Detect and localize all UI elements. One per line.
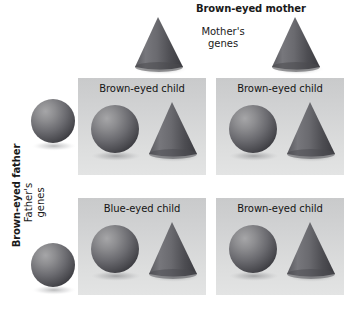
cell-bottom-right-cone-icon	[282, 218, 342, 284]
cell-bottom-left[interactable]: Blue-eyed child	[78, 198, 206, 295]
cell-bottom-right-label: Brown-eyed child	[216, 203, 344, 214]
cell-top-left-cone-icon	[144, 98, 204, 164]
father-title: Brown-eyed father	[11, 141, 22, 251]
father-genes-line-1: Father's	[23, 168, 35, 238]
mother-genes-line-1: Mother's	[199, 26, 247, 38]
cell-top-right-sphere-icon	[226, 102, 284, 164]
mother-genes-line-2: genes	[199, 38, 247, 50]
cell-top-left-sphere-icon	[88, 102, 146, 164]
mother-title: Brown-eyed mother	[196, 3, 306, 14]
father-genes-label: Father's genes	[23, 168, 46, 238]
cell-top-right-label: Brown-eyed child	[216, 83, 344, 94]
cell-top-right-cone-icon	[282, 98, 342, 164]
father-gamete-2-sphere-icon	[28, 240, 82, 296]
cell-top-left-label: Brown-eyed child	[78, 83, 206, 94]
cell-bottom-left-sphere-icon	[88, 222, 146, 284]
punnett-square-diagram: Brown-eyed mother Mother's genes Brown-e…	[0, 0, 359, 313]
cell-top-left[interactable]: Brown-eyed child	[78, 78, 206, 175]
cell-bottom-right-sphere-icon	[226, 222, 284, 284]
cell-bottom-left-label: Blue-eyed child	[78, 203, 206, 214]
mother-gamete-1-cone-icon	[128, 14, 192, 76]
cell-bottom-right[interactable]: Brown-eyed child	[216, 198, 344, 295]
mother-genes-label: Mother's genes	[199, 26, 247, 49]
mother-gamete-2-cone-icon	[265, 14, 329, 76]
cell-top-right[interactable]: Brown-eyed child	[216, 78, 344, 175]
father-genes-line-2: genes	[34, 168, 46, 238]
cell-bottom-left-cone-icon	[144, 218, 204, 284]
father-gamete-1-sphere-icon	[28, 96, 82, 152]
